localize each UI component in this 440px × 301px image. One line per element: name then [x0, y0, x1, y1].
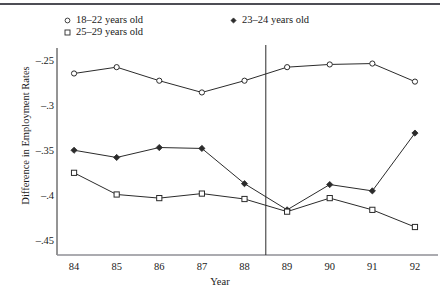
data-point-square — [114, 192, 119, 197]
data-point-square — [157, 196, 162, 201]
data-point-circle — [199, 90, 204, 95]
series-0 — [71, 61, 417, 95]
data-point-square — [285, 209, 290, 214]
data-point-square — [412, 224, 417, 229]
data-point-circle — [412, 79, 417, 84]
data-point-circle — [370, 61, 375, 66]
data-point-circle — [157, 78, 162, 83]
data-point-circle — [114, 65, 119, 70]
data-point-diamond — [327, 181, 333, 187]
data-point-square — [71, 170, 76, 175]
data-point-diamond — [156, 144, 162, 150]
data-point-square — [370, 207, 375, 212]
data-point-circle — [242, 78, 247, 83]
data-point-square — [199, 191, 204, 196]
data-point-circle — [71, 71, 76, 76]
data-point-square — [327, 196, 332, 201]
plot-area — [0, 0, 440, 301]
data-point-circle — [285, 65, 290, 70]
data-point-diamond — [114, 154, 120, 160]
data-point-square — [242, 196, 247, 201]
series-2 — [71, 170, 417, 229]
chart-figure: 18–22 years old 25–29 years old 23–24 ye… — [0, 0, 440, 301]
data-point-diamond — [71, 147, 77, 153]
data-point-circle — [327, 62, 332, 67]
